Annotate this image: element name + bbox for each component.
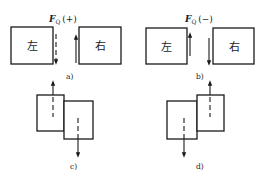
left-label: 左 bbox=[27, 40, 38, 53]
force-label: FQ(−) bbox=[184, 14, 213, 25]
force-sign: (−) bbox=[198, 14, 213, 24]
shear-force-diagram: 左 右 FQ(+) a) 左 右 FQ(−) b) c) d) bbox=[0, 0, 264, 189]
force-subscript: Q bbox=[55, 18, 60, 25]
panel-caption: c) bbox=[70, 162, 77, 171]
panel-caption: d) bbox=[196, 162, 204, 171]
left-label: 左 bbox=[161, 41, 172, 54]
right-label: 右 bbox=[229, 40, 240, 54]
force-sign: (+) bbox=[62, 14, 77, 24]
panel-d: d) bbox=[167, 83, 224, 171]
panel-caption: b) bbox=[196, 72, 204, 81]
force-label: FQ(+) bbox=[48, 14, 77, 25]
right-label: 右 bbox=[95, 39, 106, 53]
panel-caption: a) bbox=[66, 72, 73, 81]
left-segment bbox=[167, 101, 197, 139]
panel-b: 左 右 FQ(−) b) bbox=[146, 14, 254, 81]
left-segment bbox=[37, 95, 64, 131]
panel-a: 左 右 FQ(+) a) bbox=[11, 14, 121, 81]
force-subscript: Q bbox=[191, 18, 196, 25]
panel-c: c) bbox=[37, 83, 93, 171]
